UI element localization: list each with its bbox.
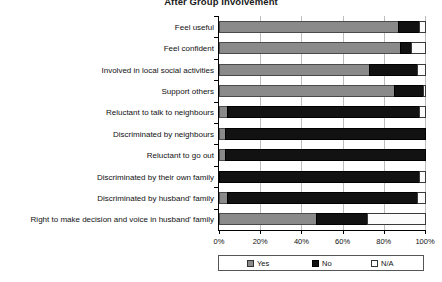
x-axis-tick xyxy=(260,230,261,234)
bar-segment-na xyxy=(417,64,426,76)
legend-label: Yes xyxy=(257,259,269,268)
bar-segment-yes xyxy=(219,21,399,33)
bar-row xyxy=(219,21,425,33)
bar-row xyxy=(219,149,425,161)
y-axis-tick xyxy=(214,102,218,103)
x-axis-tick-label: 60% xyxy=(323,237,363,246)
bar-segment-no xyxy=(225,149,426,161)
bar-row xyxy=(219,171,425,183)
bar-row xyxy=(219,64,425,76)
bar-segment-na xyxy=(423,85,426,97)
bar-segment-no xyxy=(225,128,426,140)
x-axis-tick-label: 80% xyxy=(364,237,404,246)
bar-segment-na xyxy=(367,213,426,225)
category-label: Feel useful xyxy=(175,22,214,33)
category-label: Discriminated by their own family xyxy=(97,172,214,183)
legend-item-na[interactable]: N/A xyxy=(371,258,394,270)
bar-row xyxy=(219,85,425,97)
bar-segment-na xyxy=(419,171,426,183)
black-square-swatch xyxy=(312,260,319,267)
bar-segment-na xyxy=(419,21,426,33)
category-label: Support others xyxy=(162,86,214,97)
y-axis-tick xyxy=(214,16,218,17)
white-square-swatch xyxy=(371,260,378,267)
legend-item-no[interactable]: No xyxy=(312,258,332,270)
y-axis-tick xyxy=(214,166,218,167)
bar-segment-no xyxy=(398,21,420,33)
bar-segment-no xyxy=(369,64,417,76)
y-axis-tick xyxy=(214,123,218,124)
x-axis-tick xyxy=(425,230,426,234)
category-label: Feel confident xyxy=(164,43,214,54)
category-label: Involved in local social activities xyxy=(102,65,215,76)
bar-segment-no xyxy=(219,171,420,183)
y-axis-tick xyxy=(214,187,218,188)
y-axis-tick xyxy=(214,80,218,81)
bar-row xyxy=(219,42,425,54)
bar-segment-yes xyxy=(219,42,401,54)
bar-segment-no xyxy=(394,85,424,97)
bar-segment-no xyxy=(227,192,418,204)
legend-label: No xyxy=(322,259,332,268)
x-axis-tick xyxy=(219,230,220,234)
bar-segment-na xyxy=(419,106,426,118)
x-axis-tick xyxy=(301,230,302,234)
bar-segment-na xyxy=(411,42,426,54)
bar-row xyxy=(219,128,425,140)
y-axis-tick xyxy=(214,144,218,145)
bar-segment-na xyxy=(417,192,426,204)
x-axis-tick-label: 40% xyxy=(281,237,321,246)
bar-segment-yes xyxy=(219,213,317,225)
legend-item-yes[interactable]: Yes xyxy=(247,258,269,270)
y-axis-tick xyxy=(214,209,218,210)
category-label: Discriminated by husband' family xyxy=(97,193,214,204)
bar-segment-yes xyxy=(219,85,395,97)
y-axis-tick xyxy=(214,59,218,60)
chart-legend: YesNoN/A xyxy=(218,255,424,271)
gray-square-swatch xyxy=(247,260,254,267)
y-axis-tick xyxy=(214,37,218,38)
bar-row xyxy=(219,192,425,204)
category-label: Reluctant to go out xyxy=(147,150,214,161)
category-label: Right to make decision and voice in husb… xyxy=(31,214,214,225)
x-axis-tick-label: 100% xyxy=(405,237,442,246)
x-axis-tick xyxy=(343,230,344,234)
x-axis-line xyxy=(218,230,426,231)
stacked-bar-chart: After Group Involvement Feel usefulFeel … xyxy=(0,0,442,282)
bar-segment-no xyxy=(227,106,420,118)
legend-label: N/A xyxy=(381,259,394,268)
plot-area: 0%20%40%60%80%100% xyxy=(218,16,425,230)
bar-segment-yes xyxy=(219,64,370,76)
category-label: Reluctant to talk to neighbours xyxy=(106,107,214,118)
x-axis-tick-label: 20% xyxy=(240,237,280,246)
category-label: Discriminated by neighbours xyxy=(113,129,214,140)
bar-row xyxy=(219,106,425,118)
bar-segment-no xyxy=(316,213,369,225)
bar-row xyxy=(219,213,425,225)
x-axis-tick-label: 0% xyxy=(199,237,239,246)
x-axis-tick xyxy=(384,230,385,234)
